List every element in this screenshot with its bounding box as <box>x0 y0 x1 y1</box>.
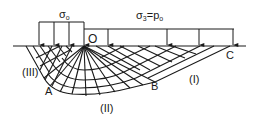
label-point-o: O <box>88 32 97 46</box>
label-point-c: C <box>226 49 234 61</box>
label-sigma-o: σo <box>59 8 70 21</box>
label-zone-iii: (III) <box>22 66 39 78</box>
label-point-a: A <box>45 85 53 97</box>
label-zone-ii: (II) <box>100 102 113 114</box>
label-zone-i: (I) <box>189 73 199 85</box>
label-point-b: B <box>151 80 158 92</box>
right-load-sigma3-po <box>84 29 234 45</box>
slip-line-diagram: σo σ3=po O C A B (III) (II) (I) <box>0 0 261 122</box>
svg-text:σo: σo <box>59 8 70 21</box>
slip-line-field <box>26 46 230 96</box>
svg-text:σ3=po: σ3=po <box>136 9 163 22</box>
left-load-sigma-o <box>39 22 84 45</box>
label-sigma3-po: σ3=po <box>136 9 163 22</box>
